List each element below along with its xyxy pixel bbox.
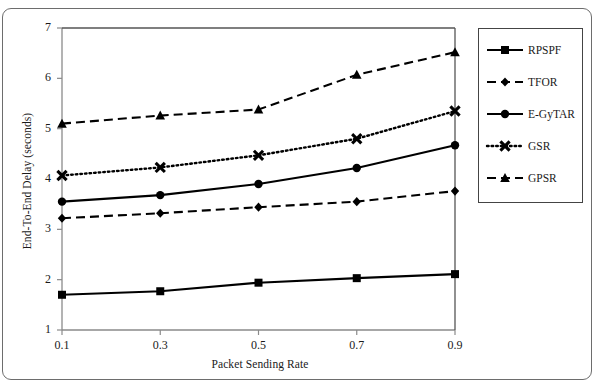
legend-item-label: GPSR	[525, 172, 557, 184]
series-rpspf	[58, 270, 459, 299]
data-point-marker	[255, 279, 263, 287]
data-point-marker	[352, 70, 362, 79]
data-point-marker	[58, 291, 66, 299]
data-series-group	[57, 47, 460, 299]
legend-item-label: GSR	[525, 140, 550, 152]
legend-item-tfor[interactable]: TFOR	[485, 72, 581, 92]
data-point-marker	[254, 180, 262, 188]
legend-item-e-gytar[interactable]: E-GyTAR	[485, 104, 581, 124]
legend-item-label: RPSPF	[525, 44, 561, 56]
legend-marker-sample	[501, 110, 509, 118]
x-tick-label: 0.3	[140, 338, 180, 353]
triangle-marker-icon	[485, 170, 525, 186]
data-point-marker	[450, 47, 460, 56]
y-axis-title: End-To-End Delay (seconds)	[21, 81, 33, 281]
series-tfor	[58, 186, 459, 222]
data-point-marker	[156, 287, 164, 295]
circle-marker-icon	[485, 106, 525, 122]
series-gsr	[57, 106, 459, 180]
legend-item-rpspf[interactable]: RPSPF	[485, 40, 581, 60]
legend-item-label: E-GyTAR	[525, 108, 575, 120]
data-point-marker	[156, 191, 164, 199]
y-tick-label: 7	[29, 20, 51, 35]
x-tick-label: 0.7	[337, 338, 377, 353]
data-point-marker	[58, 197, 66, 205]
data-point-marker	[353, 274, 361, 282]
data-point-marker	[254, 203, 262, 212]
data-point-marker	[451, 270, 459, 278]
data-point-marker	[451, 186, 459, 195]
chart-legend: RPSPFTFORE-GyTARGSRGPSR	[478, 28, 583, 203]
legend-item-gsr[interactable]: GSR	[485, 136, 581, 156]
series-line	[62, 111, 455, 175]
x-tick-label: 0.5	[239, 338, 279, 353]
data-point-marker	[58, 214, 66, 223]
x-axis-title: Packet Sending Rate	[0, 358, 520, 370]
square-marker-icon	[485, 42, 525, 58]
legend-marker-sample	[501, 77, 509, 86]
figure-container: 1234567 0.10.30.50.70.9 Packet Sending R…	[0, 0, 596, 383]
diamond-marker-icon	[485, 74, 525, 90]
x-marker-icon	[485, 138, 525, 154]
x-tick-label: 0.1	[42, 338, 82, 353]
x-tick-label: 0.9	[435, 338, 475, 353]
legend-item-label: TFOR	[525, 76, 557, 88]
data-point-marker	[353, 164, 361, 172]
series-gpsr	[57, 47, 460, 127]
legend-item-gpsr[interactable]: GPSR	[485, 168, 581, 188]
data-point-marker	[451, 141, 459, 149]
data-point-marker	[353, 197, 361, 206]
legend-marker-sample	[501, 46, 509, 54]
data-point-marker	[156, 209, 164, 218]
y-tick-label: 1	[29, 322, 51, 337]
